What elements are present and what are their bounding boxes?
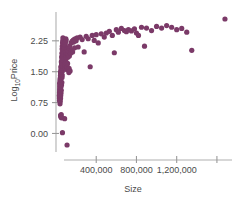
data-point	[184, 30, 189, 35]
y-axis-title-base: Log	[9, 86, 19, 101]
data-point	[80, 37, 85, 42]
data-point	[142, 44, 147, 49]
y-tick-label: 0.00	[30, 129, 48, 139]
data-point	[62, 116, 67, 121]
data-point	[159, 25, 164, 30]
data-point	[60, 130, 65, 135]
data-point	[65, 61, 70, 66]
data-point	[86, 36, 91, 41]
x-tick-label: 1,200,000	[157, 165, 197, 175]
data-points-layer	[57, 16, 228, 147]
data-point	[62, 40, 67, 45]
x-axis-title: Size	[124, 184, 142, 194]
data-point	[154, 24, 159, 29]
x-axis-ticks: 400,000800,0001,200,000	[80, 156, 217, 175]
y-axis-title-rest: Price	[9, 59, 19, 80]
data-point	[67, 68, 72, 73]
data-point	[179, 26, 184, 31]
data-point	[76, 44, 81, 49]
data-point	[222, 16, 227, 21]
y-axis: 0.000.751.502.25	[30, 12, 59, 152]
scatter-plot-figure: 0.000.751.502.25 400,000800,0001,200,000…	[0, 0, 235, 198]
chart-svg: 0.000.751.502.25 400,000800,0001,200,000…	[0, 0, 235, 198]
data-point	[169, 25, 174, 30]
data-point	[96, 40, 101, 45]
x-axis: 400,000800,0001,200,000	[64, 156, 232, 175]
data-point	[112, 50, 117, 55]
data-point	[94, 32, 99, 37]
y-axis-title: Log10Price	[9, 59, 21, 102]
data-point	[189, 48, 194, 53]
data-point	[164, 23, 169, 28]
x-tick-label: 400,000	[80, 165, 113, 175]
data-point	[88, 64, 93, 69]
x-tick-label: 800,000	[120, 165, 153, 175]
y-tick-label: 2.25	[30, 36, 48, 46]
data-point	[82, 49, 87, 54]
data-point	[64, 142, 69, 147]
data-point	[174, 27, 179, 32]
data-point	[144, 25, 149, 30]
y-tick-label: 1.50	[30, 67, 48, 77]
data-point	[149, 28, 154, 33]
y-axis-ticks: 0.000.751.502.25	[30, 36, 59, 139]
data-point	[110, 33, 115, 38]
data-point	[136, 33, 141, 38]
data-point	[139, 25, 144, 30]
y-tick-label: 0.75	[30, 98, 48, 108]
